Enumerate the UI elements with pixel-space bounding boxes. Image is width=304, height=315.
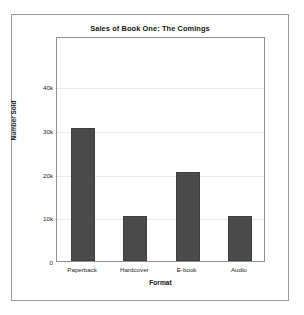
chart-figure: Sales of Book One: The Comings 010k20k30… [0,0,304,315]
x-axis-title: Format [56,279,265,286]
plot-area [56,37,265,262]
bar-paperback [71,128,95,261]
bar-audio [228,216,252,261]
bars-layer [57,38,264,261]
x-tick-label: Hardcover [120,266,149,273]
bar-hardcover [123,216,147,261]
chart-title: Sales of Book One: The Comings [11,24,289,33]
y-tick-label: 40k [43,84,53,91]
y-axis-tick-labels: 010k20k30k40k [30,37,53,262]
x-axis-tick-labels: PaperbackHardcoverE-bookAudio [56,266,265,278]
y-tick-label: 30k [43,127,53,134]
y-tick-label: 0 [50,259,53,266]
x-tick-label: Paperback [67,266,97,273]
y-axis-title: Number Sold [10,86,17,156]
x-tick-label: Audio [231,266,247,273]
y-tick-label: 10k [43,215,53,222]
y-tick-label: 20k [43,171,53,178]
bar-e-book [176,172,200,261]
x-tick-label: E-book [177,266,197,273]
